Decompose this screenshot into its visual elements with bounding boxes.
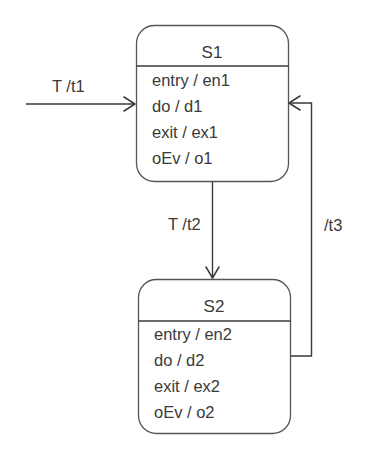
transition-s2-to-s1: /t3 (289, 96, 342, 356)
state-action-exit: exit / ex1 (152, 123, 218, 141)
state-name: S1 (202, 43, 223, 62)
transition-label: /t3 (324, 216, 342, 234)
state-s2: S2 entry / en2 do / d2 exit / ex2 oEv / … (139, 280, 291, 434)
state-action-do: do / d1 (152, 97, 202, 115)
state-action-entry: entry / en2 (154, 325, 232, 343)
state-name: S2 (204, 297, 225, 316)
transition-label: T /t2 (168, 215, 201, 233)
transition-label: T /t1 (52, 77, 85, 95)
state-action-entry: entry / en1 (152, 71, 230, 89)
state-s1: S1 entry / en1 do / d1 exit / ex1 oEv / … (137, 26, 289, 182)
state-action-exit: exit / ex2 (154, 377, 220, 395)
transition-initial: T /t1 (26, 77, 135, 111)
state-action-event: oEv / o2 (154, 403, 215, 421)
state-action-do: do / d2 (154, 351, 204, 369)
transition-s1-to-s2: T /t2 (168, 182, 219, 278)
state-action-event: oEv / o1 (152, 149, 213, 167)
state-diagram: T /t1 S1 entry / en1 do / d1 exit / ex1 … (0, 0, 373, 449)
transition-line (289, 103, 312, 356)
